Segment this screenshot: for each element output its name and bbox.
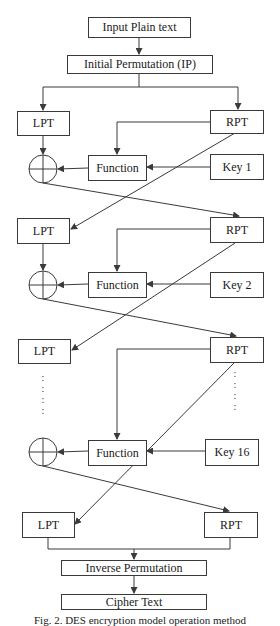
round16-function-box: Function bbox=[88, 440, 147, 466]
round1-rpt-box: RPT bbox=[210, 110, 264, 134]
round1-function-box: Function bbox=[88, 155, 147, 181]
round1-lpt-box: LPT bbox=[17, 111, 70, 136]
round2-lpt-box: LPT bbox=[17, 218, 70, 244]
initial-permutation-box: Initial Permutation (IP) bbox=[67, 55, 213, 74]
cipher-text-box: Cipher Text bbox=[61, 594, 207, 610]
round16-lpt-box: LPT bbox=[18, 339, 71, 364]
round2-key-box: Key 2 bbox=[210, 272, 264, 298]
round16-rpt-box: RPT bbox=[210, 337, 264, 363]
inverse-permutation-box: Inverse Permutation bbox=[61, 560, 207, 576]
input-plain-text-box: Input Plain text bbox=[88, 17, 191, 38]
final-rpt-box: RPT bbox=[204, 512, 258, 538]
left-ellipsis: :::: bbox=[41, 372, 45, 416]
round2-rpt-box: RPT bbox=[210, 217, 264, 243]
round16-key-box: Key 16 bbox=[205, 439, 259, 466]
round2-function-box: Function bbox=[88, 272, 147, 298]
right-ellipsis: :::: bbox=[233, 368, 237, 412]
final-lpt-box: LPT bbox=[22, 512, 75, 538]
figure-caption: Fig. 2. DES encryption model operation m… bbox=[0, 614, 280, 626]
round1-key-box: Key 1 bbox=[210, 154, 264, 180]
